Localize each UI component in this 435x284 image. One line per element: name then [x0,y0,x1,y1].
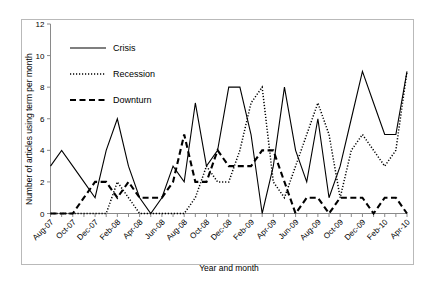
x-tick-label: Apr-08 [121,217,145,241]
x-axis-ticks [51,214,408,218]
series-line-recession [51,71,408,213]
x-tick-label: Dec-07 [75,217,100,242]
data-series-group [51,71,408,213]
x-tick-label: Dec-08 [209,217,234,242]
x-tick-label: Jun-09 [277,217,301,241]
x-axis-title: Year and month [199,263,259,273]
x-tick-label: Jun-08 [143,217,167,241]
series-line-crisis [51,71,408,213]
y-tick-label: 6 [40,115,45,124]
x-tick-label: Aug-08 [164,217,189,242]
y-tick-label: 0 [40,210,45,219]
x-tick-label: Apr-10 [389,217,413,241]
chart-figure: 024681012 Aug-07Oct-07Dec-07Feb-08Apr-08… [0,0,435,284]
legend-label-crisis: Crisis [113,43,136,53]
x-tick-label: Oct-07 [54,217,78,241]
y-axis-ticks: 024681012 [36,20,51,219]
y-tick-label: 8 [40,83,45,92]
y-tick-label: 4 [40,146,45,155]
y-axis-title: Number of articles using term per month [24,53,34,205]
line-chart: 024681012 Aug-07Oct-07Dec-07Feb-08Apr-08… [0,0,435,284]
x-tick-label: Feb-10 [365,217,390,242]
x-tick-label: Oct-09 [322,217,346,241]
x-tick-label: Feb-08 [98,217,123,242]
legend-label-downturn: Downturn [113,95,152,105]
x-axis-tick-labels: Aug-07Oct-07Dec-07Feb-08Apr-08Jun-08Aug-… [31,217,412,242]
x-tick-label: Aug-09 [298,217,323,242]
x-tick-label: Feb-09 [232,217,257,242]
x-tick-label: Dec-09 [343,217,368,242]
x-tick-label: Aug-07 [31,217,56,242]
y-tick-label: 2 [40,178,45,187]
y-tick-label: 10 [36,52,45,61]
x-tick-label: Oct-08 [188,217,212,241]
y-tick-label: 12 [36,20,45,29]
legend-label-recession: Recession [113,69,155,79]
x-tick-label: Apr-09 [255,217,279,241]
chart-legend: CrisisRecessionDownturn [70,43,155,105]
